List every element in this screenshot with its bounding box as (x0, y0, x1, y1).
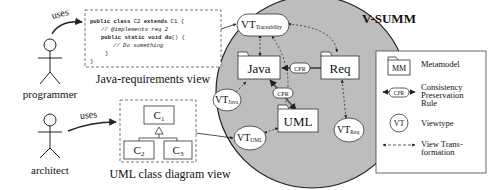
svg-text:Viewtype: Viewtype (421, 118, 454, 128)
uses-arrow-programmer (52, 22, 82, 34)
vsumm-title: V-SUMM (362, 11, 416, 26)
architect-actor (38, 114, 62, 158)
uses-arrow-architect (68, 122, 116, 131)
java-view-to-vt-traceability (221, 24, 236, 29)
svg-text:MM: MM (392, 64, 406, 73)
programmer-actor (38, 39, 62, 84)
programmer-label: programmer (23, 88, 78, 100)
uses-label-programmer: uses (50, 6, 69, 21)
svg-text:Rule: Rule (421, 98, 437, 108)
metamodel-java: Java (238, 52, 280, 79)
svg-text:UML: UML (284, 114, 313, 129)
viewtype-uml: VTUML (234, 126, 266, 150)
uml-view-caption: UML class diagram view (109, 167, 231, 181)
svg-text:}: } (105, 50, 108, 57)
svg-text:Req: Req (330, 61, 351, 76)
svg-text:}: } (90, 58, 93, 65)
svg-text:CPR: CPR (394, 90, 405, 96)
viewtype-java: VTJava (213, 89, 241, 111)
uses-label-architect: uses (79, 108, 97, 121)
svg-text:// Do something: // Do something (113, 42, 164, 49)
svg-text:public class C2 extends C1 {: public class C2 extends C1 { (90, 18, 184, 25)
svg-text:Metamodel: Metamodel (421, 59, 460, 69)
metamodel-uml: UML (278, 105, 318, 132)
viewtype-traceability: VTTraceability (237, 14, 289, 36)
java-view-caption: Java-requirements view (96, 72, 211, 86)
cpr-java-uml: CPR (273, 88, 293, 98)
svg-text:VT: VT (394, 119, 405, 128)
cpr-java-req: CPR (290, 63, 310, 73)
svg-text:CPR: CPR (294, 66, 305, 72)
metamodel-req: Req (321, 52, 359, 79)
svg-text:// @implements req 2: // @implements req 2 (101, 26, 169, 33)
vsumm-diagram: V-SUMM programmer uses public class C2 e… (0, 0, 495, 190)
svg-text:public static void do() {: public static void do() { (101, 34, 185, 41)
viewtype-req: VTReq (334, 118, 364, 142)
architect-label: architect (31, 164, 69, 176)
svg-text:Java: Java (247, 61, 270, 76)
svg-text:CPR: CPR (277, 91, 288, 97)
svg-text:formation: formation (421, 147, 455, 157)
